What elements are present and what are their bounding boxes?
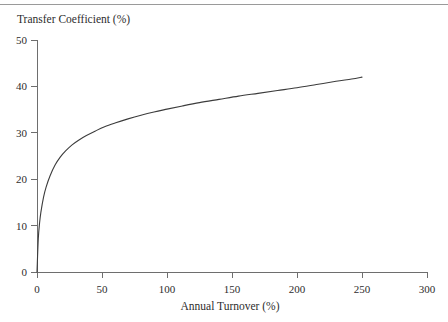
- y-ticks-group: [31, 40, 37, 272]
- x-tick-label-50: 50: [82, 283, 122, 295]
- axes-group: [37, 40, 427, 272]
- x-axis-title-wrap: Annual Turnover (%): [0, 299, 448, 313]
- y-tick-label-20: 20: [3, 173, 27, 185]
- chart-figure: Transfer Coefficient (%) 50 40 30 20 10: [0, 0, 448, 322]
- x-tick-label-200: 200: [277, 283, 317, 295]
- y-tick-label-0: 0: [3, 266, 27, 278]
- y-tick-label-30: 30: [3, 127, 27, 139]
- y-tick-label-40: 40: [3, 80, 27, 92]
- x-tick-label-300: 300: [407, 283, 447, 295]
- x-tick-label-150: 150: [212, 283, 252, 295]
- x-tick-label-100: 100: [147, 283, 187, 295]
- y-tick-label-50: 50: [3, 34, 27, 46]
- data-series-line: [37, 77, 362, 272]
- x-ticks-group: [37, 272, 427, 278]
- x-tick-label-250: 250: [342, 283, 382, 295]
- plot-area: [0, 0, 448, 322]
- x-axis-title: Annual Turnover (%): [180, 300, 279, 312]
- y-tick-label-10: 10: [3, 220, 27, 232]
- x-tick-label-0: 0: [17, 283, 57, 295]
